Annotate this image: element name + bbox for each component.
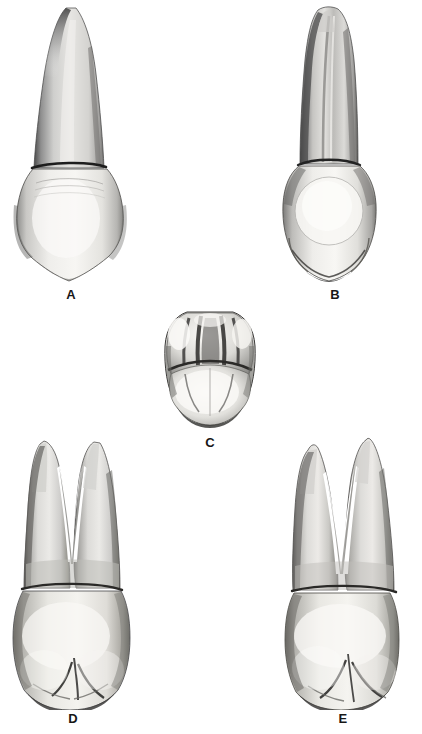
panel-label-b: B (272, 288, 398, 301)
tooth-figure-d (8, 436, 138, 710)
tooth-figure-e (278, 436, 408, 710)
panel-label-c: C (155, 436, 265, 449)
panel-a: A (8, 6, 134, 306)
panel-e: E (278, 436, 408, 732)
panel-d: D (8, 436, 138, 732)
panel-c: C (155, 306, 265, 452)
tooth-figure-b (272, 6, 398, 284)
figure-plate: A (0, 0, 422, 734)
tooth-figure-c (155, 306, 265, 432)
tooth-figure-a (8, 6, 134, 284)
panel-label-e: E (278, 712, 408, 725)
panel-label-d: D (8, 712, 138, 725)
panel-label-a: A (8, 288, 134, 301)
panel-b: B (272, 6, 398, 306)
